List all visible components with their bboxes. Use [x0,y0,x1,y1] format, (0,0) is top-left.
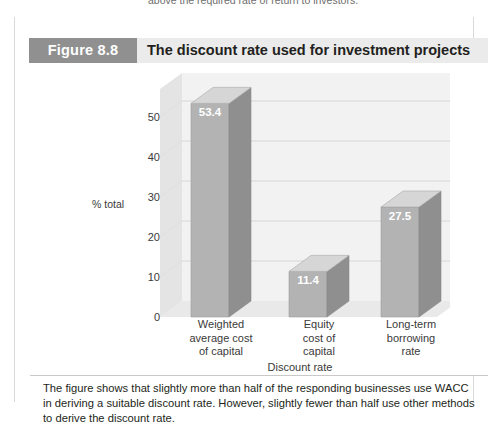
x-axis-category-line: average cost [173,332,269,346]
cropped-top-text-label: above the required rate of return to inv… [148,0,358,6]
x-axis-category-line: Long-term [363,318,459,332]
x-axis-category-line: of capital [173,345,269,359]
x-axis-category: Equitycost ofcapital [271,318,367,359]
x-axis-category-line: borrowing [363,332,459,346]
figure-number-label: Figure 8.8 [29,38,137,63]
figure-container: Figure 8.8 The discount rate used for in… [14,17,474,402]
x-axis-category-line: Weighted [173,318,269,332]
x-axis-category: Long-termborrowingrate [363,318,459,359]
figure-header-band: Figure 8.8 The discount rate used for in… [29,38,488,63]
cropped-top-text: above the required rate of return to inv… [0,0,490,9]
figure-title: The discount rate used for investment pr… [147,38,470,63]
bar-side [229,87,251,317]
x-axis-category-line: rate [363,345,459,359]
figure-caption: The figure shows that slightly more than… [43,381,477,426]
x-axis-category-line: capital [271,345,367,359]
bar-value-label: 53.4 [180,106,240,118]
figure-separator-rule [30,375,488,376]
figure-number-badge: Figure 8.8 [29,38,137,63]
x-axis-title: Discount rate [150,361,450,373]
x-axis-category-line: Equity [271,318,367,332]
bar-front [191,103,229,317]
bar-value-label: 11.4 [278,274,338,286]
chart-area: % total 01020304050 53.411.427.5 Weighte… [30,63,488,375]
bar-front [381,207,419,317]
x-axis-category: Weightedaverage costof capital [173,318,269,359]
bar-value-label: 27.5 [370,210,430,222]
x-axis-category-line: cost of [271,332,367,346]
